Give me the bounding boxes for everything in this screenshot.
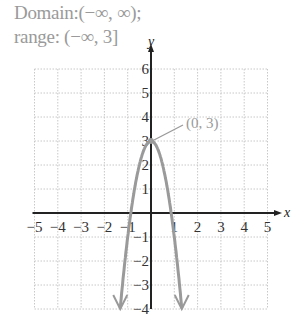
svg-text:(0, 3): (0, 3): [186, 115, 219, 132]
svg-text:−3: −3: [133, 277, 149, 293]
svg-text:6: 6: [142, 61, 150, 77]
svg-text:−3: −3: [73, 219, 89, 235]
svg-text:3: 3: [217, 219, 225, 235]
svg-text:2: 2: [142, 157, 150, 173]
svg-text:−2: −2: [133, 253, 149, 269]
svg-text:−5: −5: [27, 219, 43, 235]
tick-labels: −5−4−3−2−112345654321−1−2−3−4: [27, 61, 272, 317]
svg-text:2: 2: [194, 219, 202, 235]
svg-text:−1: −1: [133, 229, 149, 245]
svg-text:−4: −4: [133, 301, 149, 317]
parabola-graph: xy −5−4−3−2−112345654321−1−2−3−4 (0, 3): [0, 0, 291, 322]
axes: xy: [33, 34, 292, 309]
vertex-annotation: (0, 3): [148, 115, 219, 144]
svg-text:4: 4: [240, 219, 248, 235]
x-axis-label: x: [283, 205, 291, 220]
y-axis-label: y: [146, 34, 155, 49]
svg-text:−4: −4: [50, 219, 66, 235]
svg-text:1: 1: [142, 181, 150, 197]
svg-text:5: 5: [264, 219, 272, 235]
svg-text:−2: −2: [96, 219, 112, 235]
svg-text:5: 5: [142, 85, 150, 101]
svg-text:4: 4: [142, 109, 150, 125]
